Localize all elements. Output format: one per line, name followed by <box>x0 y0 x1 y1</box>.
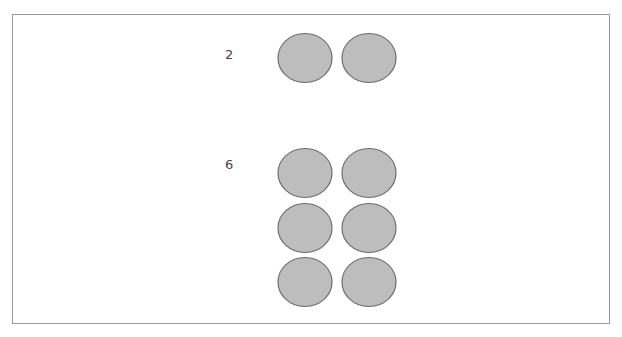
dot-group-6-4 <box>342 204 396 253</box>
dot-group-6-2 <box>342 149 396 198</box>
dot-group-6-6 <box>342 258 396 307</box>
dot-group-2-1 <box>278 34 332 83</box>
dot-group-6-1 <box>278 149 332 198</box>
dot-group-6-5 <box>278 258 332 307</box>
dot-group-6-3 <box>278 204 332 253</box>
dots-canvas <box>0 0 622 337</box>
dot-group-2-2 <box>342 34 396 83</box>
